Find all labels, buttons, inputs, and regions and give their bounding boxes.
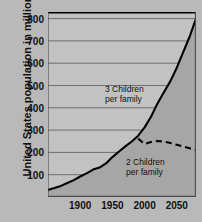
y-tick-500: 500	[27, 80, 44, 91]
y-tick-400: 400	[27, 102, 44, 113]
population-projection-chart: United States population in millions	[0, 0, 202, 222]
plot-area: 100 200 300 400 500 600 700 800 1900 195…	[48, 12, 196, 197]
y-tick-600: 600	[27, 58, 44, 69]
x-tick-2050: 2050	[166, 200, 188, 211]
chart-canvas	[48, 12, 196, 197]
three-children-label-line2: per family	[105, 95, 144, 105]
x-tick-1950: 1950	[101, 200, 123, 211]
three-children-label: 3 Children per family	[105, 85, 144, 104]
y-tick-100: 100	[27, 169, 44, 180]
y-tick-300: 300	[27, 125, 44, 136]
x-tick-2000: 2000	[133, 200, 155, 211]
two-children-label-line2: per family	[126, 168, 165, 178]
x-tick-1900: 1900	[69, 200, 91, 211]
y-tick-800: 800	[27, 13, 44, 24]
y-tick-700: 700	[27, 35, 44, 46]
y-tick-200: 200	[27, 147, 44, 158]
two-children-label: 2 Children per family	[126, 158, 165, 177]
